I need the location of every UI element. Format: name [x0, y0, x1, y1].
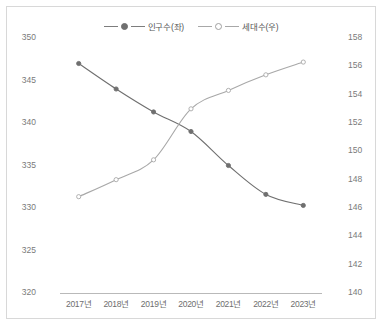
data-point-marker — [77, 61, 81, 65]
data-point-marker — [264, 192, 268, 196]
data-point-marker — [226, 163, 230, 167]
chart-screenshot: 인구수(좌) 세대수(우) 32032533033534034535014014… — [0, 0, 382, 331]
data-point-marker — [226, 88, 230, 92]
data-point-marker — [264, 73, 268, 77]
data-point-marker — [189, 129, 193, 133]
series-population — [77, 61, 306, 207]
data-point-marker — [114, 87, 118, 91]
series-line — [79, 64, 304, 206]
data-point-marker — [301, 60, 305, 64]
data-point-marker — [301, 203, 305, 207]
data-point-marker — [189, 107, 193, 111]
chart-series-layer — [0, 0, 382, 331]
data-point-marker — [114, 178, 118, 182]
data-point-marker — [77, 195, 81, 199]
data-point-marker — [151, 110, 155, 114]
data-point-marker — [151, 158, 155, 162]
